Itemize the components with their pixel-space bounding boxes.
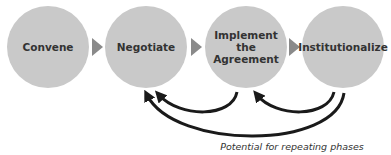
loop-arrow-implement-to-negotiate: [159, 92, 237, 112]
loop-arrow-institutionalize-to-negotiate: [147, 93, 344, 136]
caption: Potential for repeating phases: [200, 141, 384, 152]
loop-arrow-institutionalize-to-implement: [257, 92, 334, 112]
